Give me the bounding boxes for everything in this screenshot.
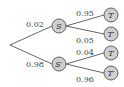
event-label: T′ [107, 30, 114, 39]
probability-tree: 0.02S0.98S′0.95T0.05T′0.04T0.96T′ [0, 0, 124, 87]
branch-probability: 0.96 [76, 75, 94, 84]
event-label: S′ [55, 60, 62, 69]
branch-edge [66, 64, 104, 73]
branch-probability: 0.98 [26, 60, 44, 69]
event-label: S [56, 22, 62, 31]
branch-probability: 0.02 [26, 20, 44, 29]
branch-probability: 0.95 [76, 9, 94, 18]
event-label: T′ [107, 69, 114, 78]
event-label: T [108, 11, 114, 20]
event-label: T [108, 49, 114, 58]
branch-edge [66, 26, 104, 34]
branch-probability: 0.05 [76, 36, 94, 45]
branch-probability: 0.04 [76, 48, 94, 57]
